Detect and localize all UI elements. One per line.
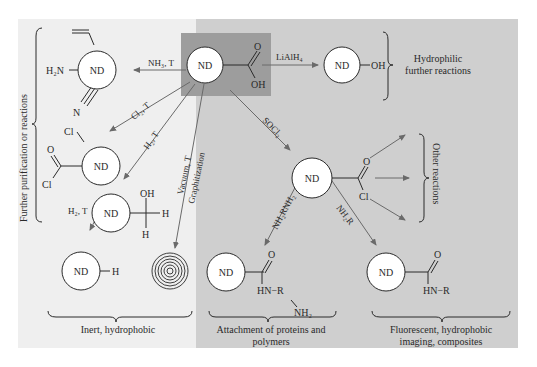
atom-h: H: [112, 266, 119, 277]
label-hydrophilic-2: further reactions: [405, 65, 471, 76]
label-inert: Inert, hydrophobic: [81, 324, 156, 335]
label-fluorescent-1: Fluorescent, hydrophobic: [390, 324, 493, 335]
atom-o: O: [268, 249, 275, 260]
atom-cl: Cl: [42, 179, 52, 190]
atom-n: N: [73, 107, 80, 118]
atom-cl: Cl: [359, 191, 369, 202]
nd-label: ND: [305, 173, 319, 184]
label-hydrophilic-1: Hydrophilic: [414, 53, 463, 64]
atom-hn-r: HN−R: [257, 285, 284, 296]
reagent-lialh4: LiAlH₄: [276, 52, 303, 62]
label-fluorescent-2: imaging, composites: [400, 336, 483, 347]
label-attachment-2: polymers: [252, 336, 289, 347]
reagent-h2-second: H₂, T: [68, 206, 88, 216]
nd-label: ND: [219, 267, 233, 278]
atom-nh2: NH₂: [294, 307, 312, 318]
atom-o: O: [434, 249, 441, 260]
nd-label: ND: [379, 267, 393, 278]
nd-label: ND: [90, 65, 104, 76]
atom-h2n: H₂N: [46, 65, 64, 76]
nd-label: ND: [335, 60, 349, 71]
atom-oh: OH: [371, 60, 385, 71]
nd-center-label: ND: [198, 60, 212, 71]
label-further-purification: Further purification or reactions: [18, 94, 29, 222]
reaction-diagram: NH₃, T LiAlH₄ Cl₂, T H₂, T Vacuum, T Gra…: [0, 0, 537, 367]
atom-oh: OH: [251, 79, 265, 90]
atom-hn-r: HN−R: [423, 285, 450, 296]
atom-h: H: [142, 229, 149, 240]
atom-cl: Cl: [64, 126, 74, 137]
label-other-reactions: Other reactions: [431, 143, 442, 204]
atom-o: O: [363, 156, 370, 167]
nd-label: ND: [104, 208, 118, 219]
atom-o: O: [47, 144, 54, 155]
atom-h: H: [162, 208, 169, 219]
nd-label: ND: [94, 161, 108, 172]
nd-label: ND: [74, 266, 88, 277]
atom-o: O: [254, 41, 261, 52]
label-attachment-1: Attachment of proteins and: [216, 324, 325, 335]
atom-oh: OH: [140, 188, 154, 199]
reagent-nh3: NH₃, T: [148, 58, 174, 68]
